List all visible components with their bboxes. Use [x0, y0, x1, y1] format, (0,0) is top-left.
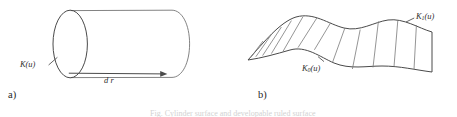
ruling-line [298, 18, 317, 48]
panel-a-cylinder: K(u) d r a) [0, 0, 228, 117]
generating-curve-ellipse [53, 10, 87, 78]
generating-curve-label: K(u) [20, 60, 35, 69]
lower-boundary-curve-label: K0(u) [302, 64, 320, 73]
lower-label-tail: (u) [311, 63, 321, 73]
ruling-line [373, 21, 378, 67]
direction-vector-shaft [69, 73, 161, 74]
panel-b-caption: b) [258, 90, 267, 101]
lower-boundary-curve [248, 49, 432, 72]
ruling-line [352, 30, 360, 69]
cylinder-right-cap-arc [172, 10, 190, 77]
ruling-line [314, 23, 330, 50]
figure-container: K(u) d r a) [0, 0, 457, 117]
ruling-line [394, 20, 398, 66]
ruling-line [333, 28, 345, 62]
clipped-bottom-caption: Fig. Cylinder surface and developable ru… [150, 110, 390, 117]
panel-a-caption: a) [8, 90, 16, 101]
direction-vector-arrowhead [160, 71, 167, 77]
upper-label-leader [406, 18, 414, 22]
upper-label-tail: (u) [425, 11, 435, 21]
panel-b-ruled-surface: K1(u) K0(u) b) [228, 0, 457, 117]
direction-vector-label: d r [104, 76, 114, 85]
upper-boundary-curve [248, 16, 432, 60]
upper-boundary-curve-label: K1(u) [416, 12, 434, 21]
ruling-line [414, 25, 416, 69]
